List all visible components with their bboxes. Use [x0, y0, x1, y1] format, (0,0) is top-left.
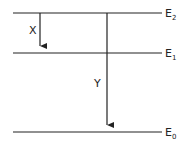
- level-label-e1: E1: [165, 47, 176, 62]
- transition-label-x: X: [29, 24, 37, 37]
- level-label-e0: E0: [165, 126, 176, 141]
- energy-level-diagram: E2 E1 E0 X Y: [0, 0, 185, 148]
- level-label-e2: E2: [165, 7, 176, 22]
- transition-label-y: Y: [93, 77, 101, 90]
- diagram-svg: E2 E1 E0 X Y: [0, 0, 185, 148]
